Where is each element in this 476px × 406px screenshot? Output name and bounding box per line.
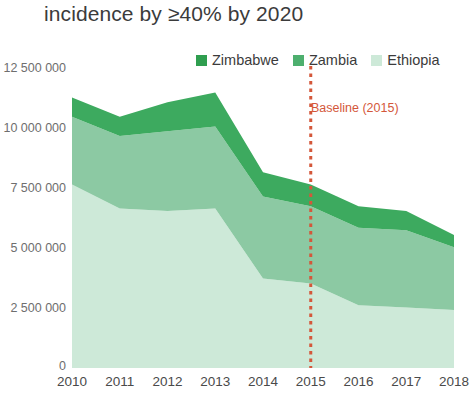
x-tick-2017: 2017: [391, 374, 421, 389]
x-tick-2014: 2014: [248, 374, 278, 389]
x-tick-2015: 2015: [296, 374, 326, 389]
x-tick-2016: 2016: [343, 374, 373, 389]
y-axis: 12 500 000 10 000 000 7 500 000 5 000 00…: [0, 0, 66, 406]
x-axis: 2010 2011 2012 2013 2014 2015 2016 2017 …: [72, 374, 454, 398]
x-tick-2012: 2012: [152, 374, 182, 389]
y-tick-10000000: 10 000 000: [3, 121, 66, 135]
y-tick-5000000: 5 000 000: [10, 241, 66, 255]
chart-title: incidence by ≥40% by 2020: [44, 2, 303, 26]
legend-swatch-zambia: [293, 55, 304, 66]
x-tick-2013: 2013: [200, 374, 230, 389]
x-tick-2018: 2018: [439, 374, 469, 389]
x-tick-2011: 2011: [105, 374, 134, 389]
y-tick-12500000: 12 500 000: [3, 61, 66, 75]
y-tick-2500000: 2 500 000: [10, 301, 66, 315]
chart-container: incidence by ≥40% by 2020 Zimbabwe Zambi…: [0, 0, 476, 406]
legend-swatch-zimbabwe: [196, 55, 207, 66]
baseline-annotation-label: Baseline (2015): [311, 101, 399, 115]
legend-swatch-ethiopia: [371, 55, 382, 66]
x-tick-2010: 2010: [57, 374, 87, 389]
y-tick-0: 0: [59, 359, 66, 373]
y-tick-7500000: 7 500 000: [10, 181, 66, 195]
